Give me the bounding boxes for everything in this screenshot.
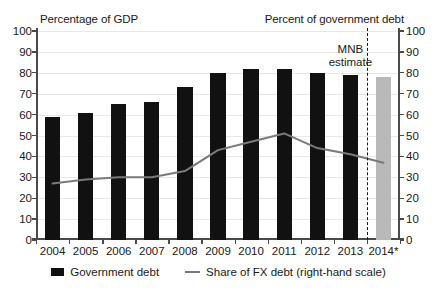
- x-axis-tick: [235, 240, 236, 244]
- left-tick-label-30: 30: [6, 171, 32, 183]
- bar-swatch-icon: [51, 268, 64, 276]
- right-axis-title: Percent of government debt: [265, 13, 404, 25]
- right-axis-tick: [400, 156, 404, 157]
- right-tick-label-80: 80: [406, 67, 434, 79]
- legend-label-government-debt: Government debt: [70, 266, 159, 278]
- right-tick-label-10: 10: [406, 213, 434, 225]
- x-axis-tick: [201, 240, 202, 244]
- legend-label-fx-debt-share: Share of FX debt (right-hand scale): [206, 266, 386, 278]
- right-axis-tick: [400, 218, 404, 219]
- x-axis-tick: [268, 240, 269, 244]
- x-axis-tick: [301, 240, 302, 244]
- right-axis-tick: [400, 72, 404, 73]
- x-label-2005: 2005: [73, 245, 99, 257]
- right-tick-label-60: 60: [406, 109, 434, 121]
- x-axis-tick: [334, 240, 335, 244]
- right-axis-tick: [400, 114, 404, 115]
- right-tick-label-30: 30: [406, 171, 434, 183]
- x-label-2010: 2010: [238, 245, 264, 257]
- right-axis-tick: [400, 198, 404, 199]
- right-tick-label-50: 50: [406, 130, 434, 142]
- right-axis-tick: [400, 93, 404, 94]
- legend-item-government-debt: Government debt: [51, 266, 159, 278]
- x-label-2011: 2011: [272, 245, 297, 257]
- right-axis-tick: [400, 51, 404, 52]
- left-axis-title: Percentage of GDP: [40, 13, 138, 25]
- x-label-2004: 2004: [40, 245, 66, 257]
- chart-container: Percentage of GDP Percent of government …: [0, 0, 437, 297]
- right-tick-label-20: 20: [406, 192, 434, 204]
- right-tick-label-70: 70: [406, 88, 434, 100]
- right-tick-label-40: 40: [406, 150, 434, 162]
- mnb-estimate-line2: estimate: [320, 56, 380, 69]
- left-tick-label-90: 90: [6, 46, 32, 58]
- right-axis-tick: [400, 30, 404, 31]
- x-axis-tick: [367, 240, 368, 244]
- x-label-2012: 2012: [304, 245, 330, 257]
- x-label-2007: 2007: [139, 245, 165, 257]
- x-label-2008: 2008: [172, 245, 198, 257]
- x-label-2013: 2013: [338, 245, 364, 257]
- right-tick-label-0: 0: [406, 234, 434, 246]
- x-axis-tick: [102, 240, 103, 244]
- left-tick-label-10: 10: [6, 213, 32, 225]
- left-tick-label-40: 40: [6, 150, 32, 162]
- mnb-estimate-annotation: MNB estimate: [320, 43, 380, 69]
- line-swatch-icon: [185, 271, 200, 273]
- left-tick-label-80: 80: [6, 67, 32, 79]
- fx-debt-line-path: [53, 133, 384, 183]
- right-tick-label-100: 100: [406, 25, 434, 37]
- right-axis-tick: [400, 177, 404, 178]
- chart-legend: Government debt Share of FX debt (right-…: [0, 266, 437, 278]
- right-axis-tick: [400, 135, 404, 136]
- left-tick-label-70: 70: [6, 88, 32, 100]
- legend-item-fx-debt-share: Share of FX debt (right-hand scale): [185, 266, 386, 278]
- left-tick-label-60: 60: [6, 109, 32, 121]
- x-axis-tick: [69, 240, 70, 244]
- x-label-2009: 2009: [205, 245, 231, 257]
- x-axis-tick: [36, 240, 37, 244]
- left-tick-label-50: 50: [6, 130, 32, 142]
- x-axis-tick: [135, 240, 136, 244]
- x-axis-tick: [400, 240, 401, 244]
- x-label-2014: 2014*: [368, 245, 398, 257]
- right-tick-label-90: 90: [406, 46, 434, 58]
- x-label-2006: 2006: [106, 245, 132, 257]
- x-axis-tick: [168, 240, 169, 244]
- mnb-estimate-line1: MNB: [320, 43, 380, 56]
- left-tick-label-100: 100: [6, 25, 32, 37]
- left-tick-label-20: 20: [6, 192, 32, 204]
- left-tick-label-0: 0: [6, 234, 32, 246]
